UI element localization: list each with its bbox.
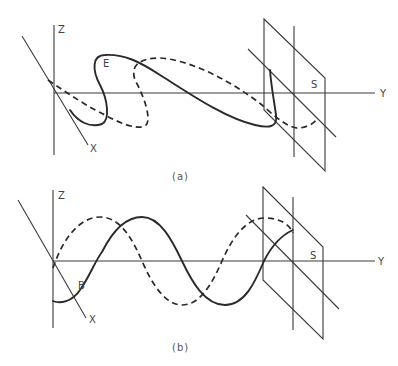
plane-label: S bbox=[310, 250, 316, 261]
panel-caption: (b) bbox=[172, 342, 189, 353]
y-axis-label: Y bbox=[379, 88, 387, 99]
z-axis-label: Z bbox=[58, 190, 65, 201]
panel-a: Z X Y S E (a) bbox=[22, 19, 387, 182]
x-axis bbox=[22, 36, 88, 145]
curve-label: E bbox=[103, 58, 109, 69]
solid-wave-a bbox=[70, 55, 276, 127]
x-axis-label: X bbox=[90, 143, 97, 154]
plane-label: S bbox=[311, 79, 317, 90]
y-axis-label: Y bbox=[377, 256, 385, 267]
z-axis-label: Z bbox=[58, 24, 65, 35]
panel-b: Z X Y S B (b) bbox=[18, 187, 385, 353]
curve-label: B bbox=[78, 280, 85, 291]
panel-caption: (a) bbox=[172, 171, 189, 182]
x-axis bbox=[18, 200, 86, 318]
x-axis-label: X bbox=[89, 314, 96, 325]
wave-diagram: Z X Y S E (a) Z X Y S B (b) bbox=[0, 0, 398, 366]
